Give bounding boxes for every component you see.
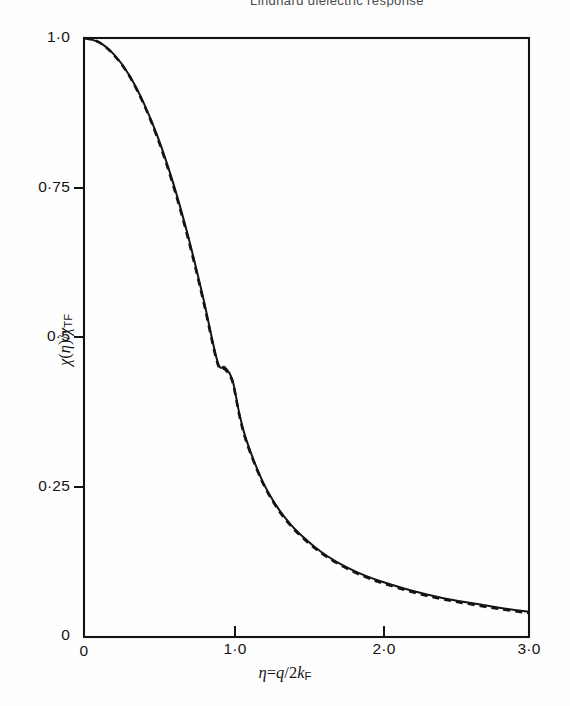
- dashed-curve: [84, 38, 529, 613]
- y-tick-label-025: 0·25: [8, 477, 70, 495]
- plot-canvas: [0, 0, 570, 706]
- figure-root: Lindhard dielectric response 1·0 0·75 0·…: [0, 0, 570, 706]
- y-tick-label-075: 0·75: [8, 178, 70, 196]
- solid-curve: [84, 38, 529, 612]
- axes-box: [84, 38, 529, 637]
- y-axis-title: χ(η)/χTF: [55, 265, 75, 415]
- plot-frame: [84, 38, 529, 637]
- y-tick-label-0: 0: [8, 626, 70, 644]
- x-tick-label-10: 1·0: [212, 640, 258, 658]
- y-tick-label-1: 1·0: [8, 28, 70, 46]
- y-axis-ticks: [74, 188, 84, 487]
- x-axis-title: η=q/2kF: [205, 663, 365, 683]
- x-tick-label-20: 2·0: [361, 640, 407, 658]
- curve-group: [84, 38, 529, 613]
- x-axis-ticks: [235, 626, 384, 637]
- x-tick-label-0: 0: [64, 642, 104, 660]
- x-tick-label-30: 3·0: [506, 640, 552, 658]
